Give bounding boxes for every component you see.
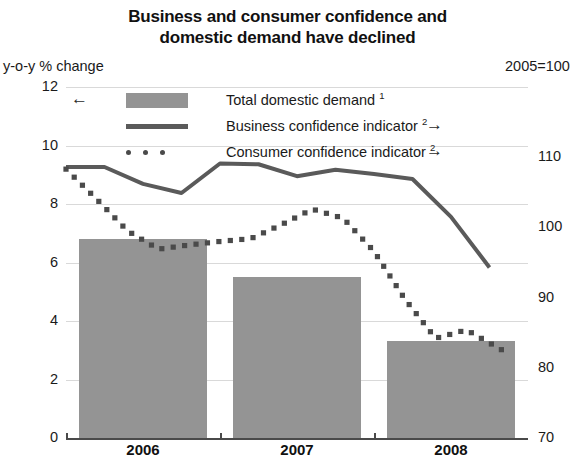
consumer-confidence-dot	[292, 215, 297, 220]
consumer-confidence-dot	[360, 237, 365, 242]
right-axis-tick-label: 80	[538, 359, 575, 375]
chart-title-line-2: domestic demand have declined	[0, 27, 575, 48]
consumer-confidence-dot	[63, 167, 68, 172]
consumer-confidence-dot	[302, 210, 307, 215]
right-axis-tick-label: 100	[538, 218, 575, 234]
consumer-confidence-dot	[313, 207, 318, 212]
x-axis-label: 2007	[237, 441, 357, 458]
legend-left-axis-arrow-icon: ←	[71, 90, 88, 108]
chart-title: Business and consumer confidence and dom…	[0, 6, 575, 48]
consumer-confidence-dot	[414, 311, 419, 316]
x-axis-tick	[374, 433, 376, 440]
x-axis-label: 2006	[83, 441, 203, 458]
consumer-confidence-dot	[387, 273, 392, 278]
legend-label-business-confidence: Business confidence indicator 2	[226, 116, 427, 134]
legend-label-total-domestic-demand: Total domestic demand 1	[226, 90, 384, 108]
left-axis-tick-label: 10	[14, 137, 58, 153]
consumer-confidence-dot	[394, 283, 399, 288]
consumer-confidence-dot	[368, 245, 373, 250]
left-axis-tick-label: 4	[14, 312, 58, 328]
consumer-confidence-dot	[458, 329, 463, 334]
chart-legend: ← Total domestic demand 1 Business confi…	[66, 88, 528, 166]
left-axis-tick-label: 0	[14, 429, 58, 445]
consumer-confidence-dot	[436, 335, 441, 340]
right-axis-tick-label: 110	[538, 148, 575, 164]
consumer-confidence-dot	[344, 220, 349, 225]
consumer-confidence-dot	[335, 214, 340, 219]
chart-container: Business and consumer confidence and dom…	[0, 0, 575, 465]
consumer-confidence-dot	[129, 231, 134, 236]
chart-title-line-1: Business and consumer confidence and	[0, 6, 575, 27]
right-axis-tick-label: 90	[538, 289, 575, 305]
x-axis-tick	[220, 433, 222, 440]
legend-swatch-filled-box-icon	[126, 93, 188, 108]
consumer-confidence-dot	[479, 336, 484, 341]
left-axis-tick-label: 6	[14, 254, 58, 270]
bar	[387, 341, 515, 438]
consumer-confidence-dot	[104, 207, 109, 212]
legend-swatch-solid-line-icon	[126, 124, 188, 129]
consumer-confidence-dot	[324, 211, 329, 216]
consumer-confidence-dot	[375, 254, 380, 259]
consumer-confidence-dot	[428, 329, 433, 334]
consumer-confidence-dot	[447, 332, 452, 337]
consumer-confidence-dot	[407, 302, 412, 307]
consumer-confidence-dot	[216, 239, 221, 244]
consumer-confidence-dot	[261, 230, 266, 235]
legend-label-consumer-confidence: Consumer confidence indicator 2	[226, 142, 435, 160]
x-axis-tick	[66, 433, 68, 440]
left-axis-tick-label: 2	[14, 371, 58, 387]
consumer-confidence-dot	[250, 235, 255, 240]
consumer-confidence-dot	[228, 238, 233, 243]
gridline	[66, 204, 528, 205]
consumer-confidence-dot	[282, 221, 287, 226]
left-axis-tick-label: 12	[14, 78, 58, 94]
right-axis-unit-label: 2005=100	[505, 58, 570, 74]
consumer-confidence-dot	[381, 264, 386, 269]
legend-right-axis-arrow-icon-business: →	[426, 116, 443, 134]
consumer-confidence-dot	[120, 223, 125, 228]
consumer-confidence-dot	[88, 191, 93, 196]
left-axis-tick-label: 8	[14, 195, 58, 211]
right-axis-tick-label: 70	[538, 429, 575, 445]
x-axis-label: 2008	[391, 441, 511, 458]
consumer-confidence-dot	[80, 183, 85, 188]
consumer-confidence-dot	[352, 228, 357, 233]
bar	[233, 277, 361, 438]
left-axis-unit-label: y-o-y % change	[3, 58, 104, 74]
legend-swatch-dotted-line-icon	[126, 150, 188, 155]
legend-right-axis-arrow-icon-consumer: →	[426, 142, 443, 160]
bar	[79, 239, 207, 438]
consumer-confidence-dot	[469, 330, 474, 335]
consumer-confidence-dot	[72, 175, 77, 180]
consumer-confidence-dot	[400, 293, 405, 298]
consumer-confidence-dot	[239, 237, 244, 242]
consumer-confidence-dot	[271, 225, 276, 230]
consumer-confidence-dot	[112, 215, 117, 220]
x-axis-line	[66, 438, 528, 440]
